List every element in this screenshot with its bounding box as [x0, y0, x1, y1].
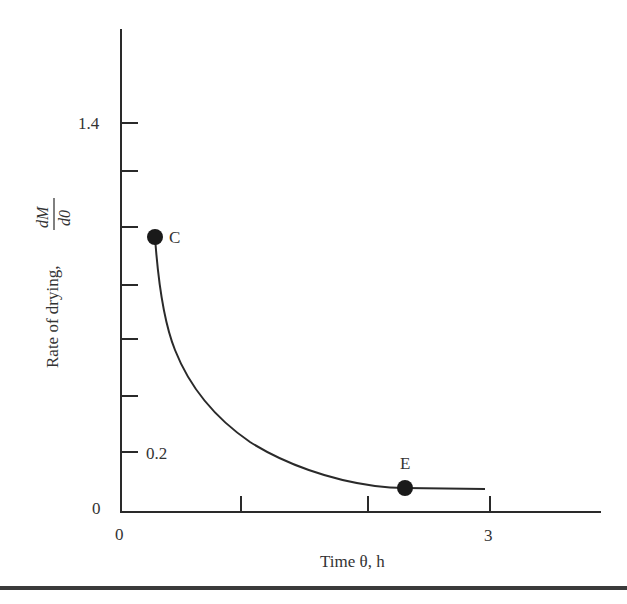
x-tick-label-0: 0 [115, 525, 124, 544]
y-tick-label-0-2: 0.2 [146, 444, 167, 463]
y-axis-title-text: Rate of drying, [43, 266, 62, 368]
x-ticks [241, 496, 490, 512]
y-tick-label-0: 0 [92, 499, 101, 518]
point-e-label: E [400, 454, 410, 473]
bottom-rule [0, 586, 627, 590]
y-ticks [121, 123, 138, 452]
x-axis-title: Time θ, h [320, 552, 385, 571]
y-axis-title: Rate of drying, dM d0 [34, 198, 73, 368]
y-axis-frac-numerator: dM [34, 205, 51, 228]
y-axis-frac-denominator: d0 [56, 210, 73, 226]
drying-curve [155, 237, 485, 489]
point-c-marker [147, 229, 163, 245]
x-tick-label-3: 3 [484, 526, 493, 545]
point-e-marker [397, 480, 413, 496]
y-tick-label-1-4: 1.4 [78, 114, 100, 133]
drying-rate-chart: 1.4 0.2 0 0 3 C E Time θ, h Rate of dryi… [0, 0, 627, 604]
point-c-label: C [169, 228, 180, 247]
